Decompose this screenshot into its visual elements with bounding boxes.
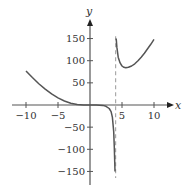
chart: −10−551015010050−50−100−150 x y — [0, 0, 188, 194]
x-axis-arrow-icon — [167, 102, 174, 108]
y-tick-label: 100 — [66, 55, 85, 66]
y-tick-label: −50 — [64, 122, 85, 133]
y-tick-label: −150 — [58, 166, 85, 177]
curve-right-branch — [116, 39, 154, 68]
x-tick-label: 5 — [119, 110, 125, 121]
x-tick-label: −5 — [51, 110, 66, 121]
x-tick-label: −10 — [15, 110, 36, 121]
y-axis-arrow-icon — [87, 19, 93, 26]
y-tick-label: −100 — [58, 144, 85, 155]
axes — [12, 19, 174, 185]
y-tick-label: 50 — [72, 77, 85, 88]
y-tick-label: 150 — [66, 33, 85, 44]
x-axis-label: x — [175, 99, 182, 112]
y-axis-label: y — [85, 5, 93, 18]
x-tick-label: 10 — [148, 110, 161, 121]
